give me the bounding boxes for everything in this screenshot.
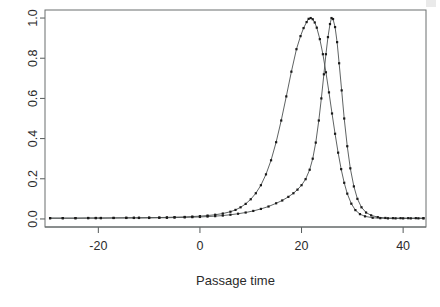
data-point — [315, 142, 317, 144]
data-point — [410, 217, 412, 219]
y-tick-label: 1.0 — [26, 9, 40, 26]
data-point — [415, 217, 417, 219]
data-point — [341, 89, 343, 91]
y-axis-tick-labels: 0.00.20.40.60.81.0 — [26, 9, 40, 227]
data-point — [292, 192, 294, 194]
data-point — [300, 184, 302, 186]
data-point — [320, 97, 322, 99]
data-point — [325, 71, 327, 73]
y-tick-label: 0.4 — [26, 130, 40, 147]
data-point — [222, 214, 224, 216]
data-point — [267, 205, 269, 207]
data-point — [323, 73, 325, 75]
data-point — [372, 217, 374, 219]
data-point — [346, 193, 348, 195]
data-point-markers — [49, 17, 425, 220]
data-point — [49, 217, 51, 219]
data-point — [343, 182, 345, 184]
data-point — [364, 215, 366, 217]
data-point — [62, 217, 64, 219]
data-point — [260, 208, 262, 210]
scan-artifact — [426, 0, 436, 7]
data-point — [319, 38, 321, 40]
x-tick-label: -20 — [89, 239, 107, 253]
data-point — [394, 217, 396, 219]
data-point — [112, 217, 114, 219]
data-point — [206, 215, 208, 217]
x-axis-title: Passage time — [196, 273, 275, 288]
x-axis-ticks — [45, 227, 426, 233]
data-point — [191, 216, 193, 218]
plot-frame — [45, 10, 426, 227]
y-tick-label: 0.0 — [26, 210, 40, 227]
y-tick-label: 0.2 — [26, 170, 40, 187]
y-tick-label: 0.6 — [26, 90, 40, 107]
data-point — [377, 216, 379, 218]
data-point — [250, 198, 252, 200]
curve-broad-curve — [50, 18, 423, 218]
data-point — [245, 203, 247, 205]
data-point — [327, 36, 329, 38]
data-point — [331, 112, 333, 114]
data-point — [95, 217, 97, 219]
data-point — [290, 71, 292, 73]
x-tick-label: 20 — [295, 239, 309, 253]
data-point — [325, 53, 327, 55]
data-point — [312, 18, 314, 20]
data-point — [365, 211, 367, 213]
data-point — [359, 213, 361, 215]
y-tick-label: 0.8 — [26, 49, 40, 66]
data-point — [255, 192, 257, 194]
data-point — [338, 62, 340, 64]
data-point — [328, 91, 330, 93]
data-point — [222, 212, 224, 214]
data-point — [280, 119, 282, 121]
x-tick-label: 0 — [196, 239, 203, 253]
data-point — [353, 185, 355, 187]
data-point — [184, 216, 186, 218]
data-point — [125, 217, 127, 219]
data-point — [310, 17, 312, 19]
data-point — [314, 21, 316, 23]
data-point — [270, 159, 272, 161]
curve-narrow-curve — [50, 18, 423, 218]
data-point — [252, 210, 254, 212]
data-point — [158, 217, 160, 219]
data-point — [354, 209, 356, 211]
chart-figure: 0.00.20.40.60.81.0 -2002040 Passage time — [0, 0, 440, 307]
data-point — [87, 217, 89, 219]
data-point — [265, 173, 267, 175]
data-point — [305, 178, 307, 180]
data-point — [379, 217, 381, 219]
data-point — [370, 214, 372, 216]
data-point — [199, 216, 201, 218]
data-point — [296, 189, 298, 191]
data-point — [356, 198, 358, 200]
data-point — [166, 217, 168, 219]
data-point — [316, 27, 318, 29]
data-point — [332, 18, 334, 20]
data-point — [74, 217, 76, 219]
data-point — [312, 158, 314, 160]
data-point — [334, 26, 336, 28]
y-axis-ticks — [40, 18, 45, 219]
data-point — [402, 217, 404, 219]
data-point — [334, 133, 336, 135]
data-point — [337, 152, 339, 154]
data-point — [343, 117, 345, 119]
data-point — [349, 167, 351, 169]
data-point — [392, 217, 394, 219]
passage-time-plot: 0.00.20.40.60.81.0 -2002040 Passage time — [0, 0, 440, 307]
data-point — [275, 141, 277, 143]
x-tick-label: 40 — [396, 239, 410, 253]
data-point — [173, 216, 175, 218]
data-point — [237, 213, 239, 215]
x-axis-tick-labels: -2002040 — [89, 239, 410, 253]
data-point — [234, 209, 236, 211]
data-point — [407, 217, 409, 219]
data-point — [308, 18, 310, 20]
data-point — [384, 217, 386, 219]
data-point — [285, 95, 287, 97]
data-point — [350, 203, 352, 205]
data-point — [133, 217, 135, 219]
